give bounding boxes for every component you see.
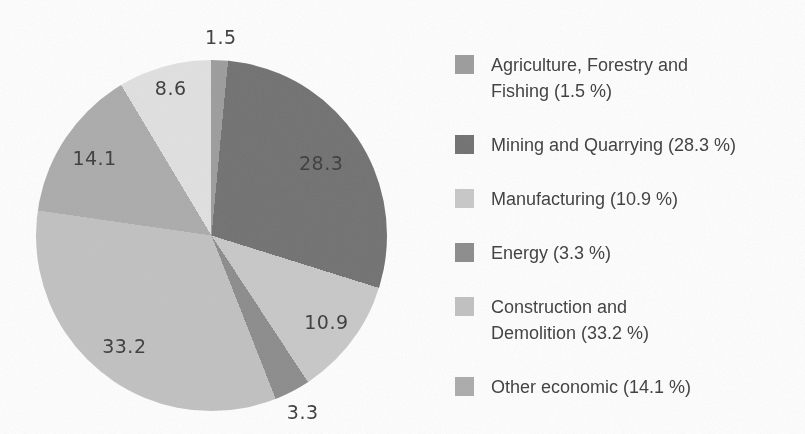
legend-color-swatch [455, 377, 474, 396]
legend-item: Other economic (14.1 %) [455, 374, 795, 400]
chart-legend: Agriculture, Forestry and Fishing (1.5 %… [455, 52, 795, 400]
legend-color-swatch [455, 189, 474, 208]
legend-item: Energy (3.3 %) [455, 240, 795, 266]
pie-area: 1.528.310.93.333.214.18.6 [36, 60, 387, 411]
legend-label: Construction and Demolition (33.2 %) [491, 294, 649, 346]
legend-color-swatch [455, 55, 474, 74]
legend-item: Agriculture, Forestry and Fishing (1.5 %… [455, 52, 795, 104]
legend-color-swatch [455, 297, 474, 316]
pie-chart [36, 60, 387, 411]
legend-label: Mining and Quarrying (28.3 %) [491, 132, 736, 158]
pie-value-label: 3.3 [287, 401, 319, 423]
pie-chart-figure: 1.528.310.93.333.214.18.6 Agriculture, F… [0, 0, 805, 434]
pie-value-label: 10.9 [304, 311, 348, 333]
legend-label: Other economic (14.1 %) [491, 374, 691, 400]
legend-label: Agriculture, Forestry and Fishing (1.5 %… [491, 52, 688, 104]
pie-value-label: 28.3 [299, 152, 343, 174]
legend-label: Manufacturing (10.9 %) [491, 186, 678, 212]
pie-value-label: 33.2 [102, 335, 146, 357]
legend-item: Mining and Quarrying (28.3 %) [455, 132, 795, 158]
legend-item: Construction and Demolition (33.2 %) [455, 294, 795, 346]
pie-value-label: 8.6 [155, 77, 187, 99]
pie-value-label: 14.1 [72, 147, 116, 169]
legend-color-swatch [455, 243, 474, 262]
legend-color-swatch [455, 135, 474, 154]
legend-label: Energy (3.3 %) [491, 240, 611, 266]
legend-item: Manufacturing (10.9 %) [455, 186, 795, 212]
pie-value-label: 1.5 [205, 26, 237, 48]
